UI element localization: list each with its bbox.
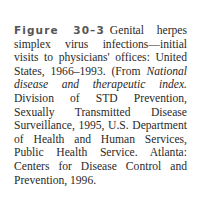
figure-caption: Figure 30–3Genital herpes simplex virus … (14, 24, 187, 187)
caption-source-text: Division of STD Prevention, Sexually Tra… (14, 92, 187, 187)
figure-label: Figure 30–3 (14, 24, 105, 36)
